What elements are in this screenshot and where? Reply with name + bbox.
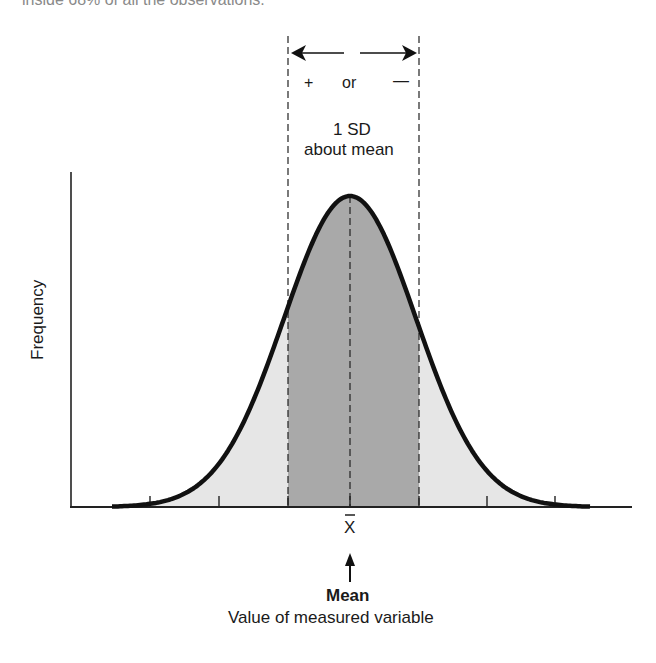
about-mean-label: about mean <box>304 140 394 160</box>
mean-label: Mean <box>326 586 369 606</box>
right-arrow-icon <box>360 45 417 61</box>
mean-up-arrow-icon <box>345 553 355 582</box>
left-arrow-icon <box>291 45 344 61</box>
xbar-label: X <box>344 518 355 538</box>
x-axis-label: Value of measured variable <box>228 608 434 628</box>
plus-sign-label: + <box>304 74 313 92</box>
minus-sign-label: — <box>393 72 409 90</box>
or-label: or <box>342 74 356 92</box>
one-sd-shaded-region <box>288 150 419 510</box>
normal-distribution-chart <box>0 0 656 663</box>
y-axis-label: Frequency <box>28 280 48 360</box>
one-sd-label: 1 SD <box>333 120 371 140</box>
